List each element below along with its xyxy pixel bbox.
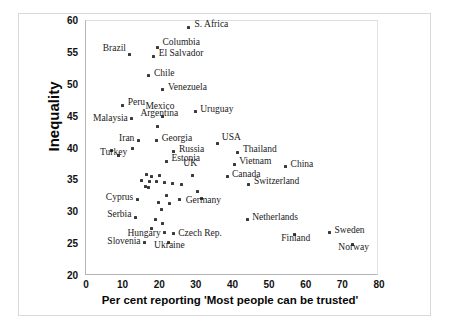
data-point <box>154 218 157 221</box>
point-label: Netherlands <box>252 212 298 222</box>
point-label: Vietnam <box>239 156 271 166</box>
data-point <box>226 175 229 178</box>
x-tick-label: 10 <box>108 280 138 290</box>
data-point <box>216 142 219 145</box>
data-point <box>136 198 139 201</box>
y-tick-label: 35 <box>52 175 78 185</box>
data-point <box>152 55 155 58</box>
point-label: Norway <box>338 242 369 252</box>
point-label: Argentina <box>140 108 178 118</box>
data-point <box>147 74 150 77</box>
data-point <box>160 208 163 211</box>
data-point <box>128 53 131 56</box>
y-tick-label: 30 <box>52 207 78 217</box>
data-point <box>233 163 236 166</box>
data-point <box>247 183 250 186</box>
data-point <box>158 174 161 177</box>
plot-area: 202530354045505560 01020304050607080 S. … <box>85 20 378 275</box>
x-tick-label: 20 <box>144 280 174 290</box>
data-point <box>148 180 151 183</box>
point-label: Peru <box>128 97 145 107</box>
data-point <box>187 26 190 29</box>
data-point <box>328 231 331 234</box>
y-tick-label: 60 <box>52 16 78 26</box>
y-tick-label: 45 <box>52 112 78 122</box>
data-point <box>284 165 287 168</box>
point-label: Cyprus <box>106 192 133 202</box>
point-label: Columbia <box>162 37 199 47</box>
point-label: Venezuela <box>168 82 207 92</box>
y-tick-label: 25 <box>52 239 78 249</box>
point-label: Serbia <box>107 209 131 219</box>
data-point <box>147 186 150 189</box>
data-point <box>191 174 194 177</box>
x-tick-label: 40 <box>218 280 248 290</box>
point-label: Turkey <box>100 147 127 157</box>
data-point <box>155 139 158 142</box>
point-label: Iran <box>119 133 134 143</box>
data-point <box>150 175 153 178</box>
data-point <box>165 160 168 163</box>
point-label: Uruguay <box>200 104 233 114</box>
x-tick-label: 70 <box>327 280 357 290</box>
data-point <box>163 181 166 184</box>
data-point <box>236 151 239 154</box>
data-point <box>157 201 160 204</box>
data-point <box>196 190 199 193</box>
point-label: Russia <box>179 144 204 154</box>
data-point <box>140 179 143 182</box>
y-tick-label: 50 <box>52 80 78 90</box>
data-point <box>161 88 164 91</box>
data-point <box>180 183 183 186</box>
point-label: Sweden <box>335 225 365 235</box>
x-axis-title: Per cent reporting 'Most people can be t… <box>55 294 405 306</box>
x-tick-label: 50 <box>254 280 284 290</box>
point-label: USA <box>222 132 241 142</box>
data-point <box>131 147 134 150</box>
data-point <box>121 104 124 107</box>
data-point <box>137 139 140 142</box>
data-point <box>134 216 137 219</box>
data-point <box>161 222 164 225</box>
data-point <box>163 231 166 234</box>
point-label: Brazil <box>103 43 126 53</box>
data-point <box>172 232 175 235</box>
point-label: UK <box>183 158 197 168</box>
scatter-plot-figure: Inequality Per cent reporting 'Most peop… <box>0 0 450 332</box>
y-tick-label: 40 <box>52 144 78 154</box>
x-tick-label: 80 <box>364 280 394 290</box>
data-point <box>165 194 168 197</box>
data-point <box>246 218 249 221</box>
point-label: S. Africa <box>195 19 229 29</box>
x-tick-label: 0 <box>71 280 101 290</box>
point-label: Germany <box>186 195 221 205</box>
point-label: El Salvador <box>159 48 204 58</box>
data-point <box>178 198 181 201</box>
x-tick-label: 30 <box>181 280 211 290</box>
point-label: China <box>291 159 314 169</box>
point-label: Czech Rep. <box>178 228 222 238</box>
point-label: Ukraine <box>154 240 185 250</box>
point-label: Georgia <box>162 133 192 143</box>
data-point <box>143 241 146 244</box>
data-point <box>194 110 197 113</box>
x-tick-label: 60 <box>291 280 321 290</box>
data-point <box>130 117 133 120</box>
data-point <box>145 173 148 176</box>
point-label: Thailand <box>243 144 277 154</box>
point-label: Switzerland <box>254 176 299 186</box>
data-point <box>155 180 158 183</box>
data-point <box>168 202 171 205</box>
point-label: Malaysia <box>93 113 128 123</box>
y-tick-label: 55 <box>52 48 78 58</box>
data-point <box>156 125 159 128</box>
point-label: Finland <box>281 233 310 243</box>
data-point <box>171 182 174 185</box>
point-label: Chile <box>154 68 175 78</box>
point-label: Slovenia <box>107 236 140 246</box>
